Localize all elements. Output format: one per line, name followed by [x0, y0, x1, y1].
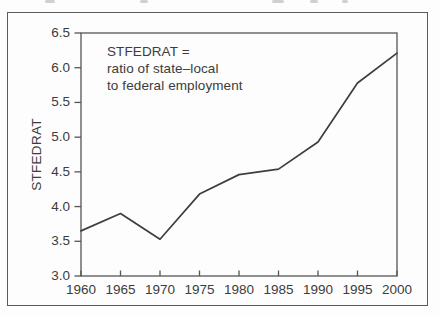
- x-tick-label: 1980: [221, 282, 257, 297]
- x-tick-label: 1985: [261, 282, 297, 297]
- y-tick-label: 6.5: [42, 25, 70, 40]
- annotation-line: to federal employment: [107, 77, 243, 94]
- scanned-figure-page: STFEDRAT STFEDRAT = ratio of state–local…: [0, 0, 440, 315]
- annotation-line: ratio of state–local: [107, 60, 243, 77]
- y-tick-label: 3.5: [42, 233, 70, 248]
- x-tick-label: 1970: [142, 282, 178, 297]
- y-tick-label: 4.5: [42, 164, 70, 179]
- y-tick-label: 6.0: [42, 60, 70, 75]
- x-tick-label: 1990: [300, 282, 336, 297]
- chart-annotation: STFEDRAT = ratio of state–local to feder…: [107, 43, 243, 94]
- x-tick-label: 2000: [379, 282, 415, 297]
- y-tick-label: 3.0: [42, 268, 70, 283]
- y-tick-label: 4.0: [42, 199, 70, 214]
- y-tick-label: 5.0: [42, 129, 70, 144]
- x-tick-label: 1965: [103, 282, 139, 297]
- x-tick-label: 1960: [63, 282, 99, 297]
- y-tick-label: 5.5: [42, 94, 70, 109]
- annotation-line: STFEDRAT =: [107, 43, 243, 60]
- x-tick-label: 1995: [340, 282, 376, 297]
- x-tick-label: 1975: [182, 282, 218, 297]
